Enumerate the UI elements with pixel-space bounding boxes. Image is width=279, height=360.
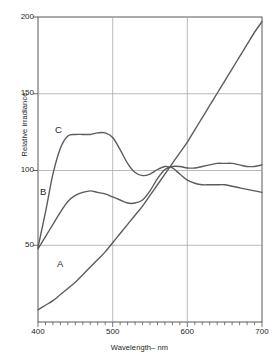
y-tick-label-200: 200: [2, 12, 34, 21]
y-axis-ticks: [33, 17, 38, 245]
chart-plot-area: [0, 0, 279, 360]
curve-label-c: C: [55, 124, 62, 135]
y-axis-title: Relative irradiance: [20, 55, 29, 195]
y-tick-label-50: 50: [2, 240, 34, 249]
x-axis-minor-ticks: [38, 322, 262, 327]
curve-a: [38, 22, 262, 310]
x-axis-title: Wavelength– nm: [0, 343, 279, 352]
plot-frame: [38, 17, 262, 322]
y-tick-label-150: 150: [2, 88, 34, 97]
curve-label-b: B: [40, 186, 46, 197]
chart-figure: 200 150 100 50 400 500 600 700 Relative …: [0, 0, 279, 360]
x-tick-label-500: 500: [93, 327, 133, 336]
x-tick-label-600: 600: [167, 327, 207, 336]
x-tick-label-400: 400: [18, 327, 58, 336]
curve-label-a: A: [57, 258, 63, 269]
x-tick-label-700: 700: [242, 327, 279, 336]
y-tick-label-100: 100: [2, 165, 34, 174]
curve-b: [38, 163, 262, 249]
